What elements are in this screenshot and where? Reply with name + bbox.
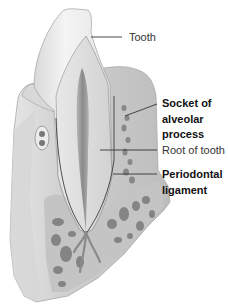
label-tooth: Tooth (129, 30, 156, 46)
label-root-of-tooth: Root of tooth (162, 143, 225, 159)
label-tooth-text: Tooth (129, 31, 156, 43)
label-root-text: Root of tooth (162, 144, 225, 156)
label-socket-line-1: Socket of (162, 96, 212, 112)
label-periodontal-line-1: Periodontal (162, 167, 223, 183)
label-socket-line-2: alveolar (162, 112, 212, 128)
label-periodontal-line-2: ligament (162, 183, 223, 199)
label-socket-line-3: process (162, 127, 212, 143)
label-socket-of-alveolar-process: Socket of alveolar process (162, 96, 212, 143)
label-periodontal-ligament: Periodontal ligament (162, 167, 223, 198)
